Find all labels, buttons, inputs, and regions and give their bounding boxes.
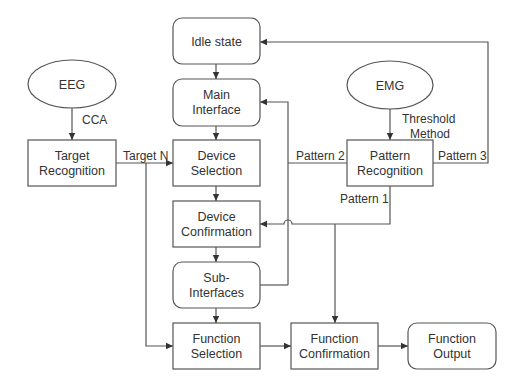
node-device-confirmation: Device Confirmation	[173, 201, 260, 247]
node-sub-interfaces: Sub- Interfaces	[173, 262, 260, 308]
node-function-output-label-1: Function	[428, 332, 476, 346]
node-eeg-label: EEG	[59, 78, 85, 92]
node-device-confirmation-label-2: Confirmation	[181, 225, 252, 239]
node-device-selection: Device Selection	[173, 140, 260, 186]
node-function-confirmation: Function Confirmation	[291, 323, 378, 369]
node-eeg: EEG	[28, 60, 116, 108]
node-pattern-recognition: Pattern Recognition	[347, 140, 433, 186]
node-function-confirmation-label-1: Function	[311, 332, 359, 346]
node-main-interface: Main Interface	[173, 79, 260, 126]
label-pattern-1: Pattern 1	[340, 192, 389, 206]
node-device-confirmation-label-1: Device	[197, 210, 235, 224]
node-sub-interfaces-label-2: Interfaces	[189, 286, 244, 300]
label-threshold-line2: Method	[410, 127, 450, 141]
node-function-selection-label-2: Selection	[191, 347, 242, 361]
node-sub-interfaces-label-1: Sub-	[203, 271, 229, 285]
node-target-recognition-label-1: Target	[55, 149, 90, 163]
node-function-output: Function Output	[408, 323, 496, 369]
node-target-recognition-label-2: Recognition	[39, 164, 105, 178]
flowchart: CCA Threshold Method Target N Pattern 2 …	[0, 0, 516, 390]
node-emg-label: EMG	[376, 79, 404, 93]
node-emg: EMG	[347, 61, 433, 109]
node-function-selection-label-1: Function	[193, 332, 241, 346]
node-main-interface-label-2: Interface	[192, 103, 241, 117]
label-pattern-3: Pattern 3	[438, 149, 487, 163]
label-threshold-line1: Threshold	[402, 112, 455, 126]
node-function-selection: Function Selection	[173, 323, 260, 369]
node-function-confirmation-label-2: Confirmation	[299, 347, 370, 361]
edge-target-to-function-selection	[146, 163, 173, 346]
node-device-selection-label-2: Selection	[191, 164, 242, 178]
node-target-recognition: Target Recognition	[28, 140, 116, 186]
node-function-output-label-2: Output	[433, 347, 471, 361]
node-pattern-recognition-label-1: Pattern	[370, 149, 410, 163]
edge-pattern2-to-main-interface	[260, 102, 288, 285]
node-main-interface-label-1: Main	[203, 88, 230, 102]
node-pattern-recognition-label-2: Recognition	[357, 164, 423, 178]
label-target-n: Target N	[123, 149, 168, 163]
node-device-selection-label-1: Device	[197, 149, 235, 163]
node-idle-state-label: Idle state	[191, 35, 242, 49]
node-idle-state: Idle state	[173, 18, 260, 64]
label-cca: CCA	[82, 113, 107, 127]
label-pattern-2: Pattern 2	[296, 149, 345, 163]
